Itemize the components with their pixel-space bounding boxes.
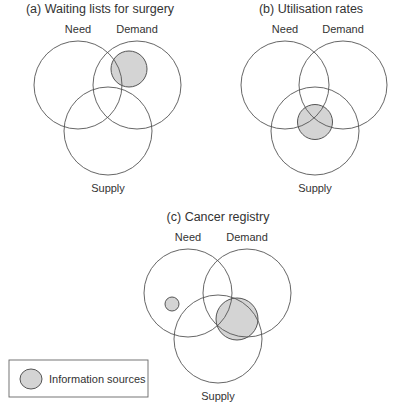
diagram-b: (b) Utilisation rates Need Demand Supply <box>241 2 387 194</box>
diagram-c-need-label: Need <box>175 231 201 243</box>
diagram-a-supply-label: Supply <box>91 182 125 194</box>
diagram-b-need-label: Need <box>272 23 298 35</box>
diagram-c-need-circle <box>144 249 232 337</box>
legend-swatch-icon <box>20 369 42 389</box>
diagram-b-need-circle <box>241 41 329 129</box>
diagram-c-title: (c) Cancer registry <box>167 210 271 224</box>
diagram-c-demand-label: Demand <box>226 231 268 243</box>
diagram-b-supply-label: Supply <box>298 182 332 194</box>
diagram-a-demand-label: Demand <box>116 23 158 35</box>
diagram-b-demand-label: Demand <box>322 23 364 35</box>
diagram-b-information-source <box>298 105 333 140</box>
diagram-c-supply-label: Supply <box>201 390 235 402</box>
diagram-c-large-information-source <box>216 298 258 340</box>
diagram-a-title: (a) Waiting lists for surgery <box>26 2 175 16</box>
diagram-a: (a) Waiting lists for surgery Need Deman… <box>26 2 181 194</box>
legend-label: Information sources <box>49 373 146 385</box>
diagram-a-supply-circle <box>64 87 152 175</box>
diagram-b-demand-circle <box>299 41 387 129</box>
legend: Information sources <box>9 360 148 397</box>
diagram-a-need-circle <box>34 41 122 129</box>
venn-figure: (a) Waiting lists for surgery Need Deman… <box>0 0 393 415</box>
diagram-a-need-label: Need <box>65 23 91 35</box>
diagram-c-small-information-source <box>165 297 179 311</box>
diagram-b-title: (b) Utilisation rates <box>259 2 363 16</box>
diagram-a-information-source <box>111 51 147 87</box>
diagram-c: (c) Cancer registry Need Demand Supply <box>144 210 291 402</box>
diagram-c-supply-circle <box>174 295 262 383</box>
